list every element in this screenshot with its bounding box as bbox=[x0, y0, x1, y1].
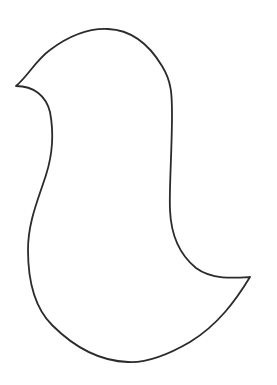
bird-outline-icon bbox=[0, 0, 277, 385]
drawing-canvas bbox=[0, 0, 277, 385]
bird-outline-path bbox=[16, 29, 250, 362]
